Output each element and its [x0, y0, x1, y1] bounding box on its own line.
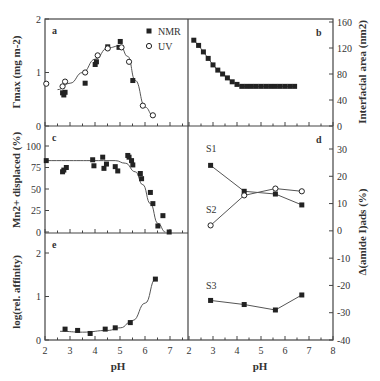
svg-text:2: 2	[36, 248, 41, 259]
series-label-s1: S1	[206, 143, 217, 154]
svg-text:-10: -10	[337, 253, 350, 264]
xlabel-left: pH	[111, 360, 126, 372]
svg-text:1: 1	[36, 67, 41, 78]
ylabel-d: Δ(amide I)ads (%)	[356, 188, 369, 275]
panel-label-a: a	[52, 25, 57, 36]
svg-text:0: 0	[337, 121, 342, 132]
figure: 2345672345678012025507510001204080120160…	[0, 0, 380, 381]
svg-text:2: 2	[187, 345, 192, 356]
svg-text:50: 50	[31, 184, 41, 195]
svg-text:7: 7	[307, 345, 312, 356]
svg-text:100: 100	[26, 141, 41, 152]
ylabel-a: Γmax (mg m-2)	[10, 35, 23, 108]
panel-label-e: e	[52, 239, 57, 250]
xlabel-right: pH	[253, 360, 268, 372]
svg-text:8: 8	[331, 345, 336, 356]
svg-text:120: 120	[337, 43, 352, 54]
ylabel-e: log(rel. affinity)	[10, 255, 23, 329]
legend-uv-marker	[146, 43, 151, 48]
svg-text:0: 0	[36, 335, 41, 346]
legend: NMR UV	[146, 26, 181, 52]
panel-label-c: c	[52, 132, 57, 143]
svg-text:1: 1	[36, 291, 41, 302]
panel-label-b: b	[316, 27, 322, 38]
svg-text:160: 160	[337, 17, 352, 28]
svg-text:-40: -40	[337, 335, 350, 346]
plot-data	[44, 38, 305, 336]
svg-text:25: 25	[31, 205, 41, 216]
svg-text:0: 0	[337, 225, 342, 236]
legend-uv-label: UV	[158, 41, 173, 52]
svg-text:5: 5	[118, 345, 123, 356]
svg-text:40: 40	[337, 95, 347, 106]
svg-text:7: 7	[168, 345, 173, 356]
svg-text:6: 6	[143, 345, 148, 356]
legend-nmr-marker	[147, 29, 152, 34]
ylabel-b: Interfacial area (nm2)	[356, 20, 369, 124]
svg-text:-20: -20	[337, 280, 350, 291]
legend-nmr-label: NMR	[158, 26, 181, 37]
svg-text:10: 10	[337, 198, 347, 209]
svg-text:2: 2	[43, 345, 48, 356]
svg-text:0: 0	[36, 121, 41, 132]
svg-text:6: 6	[283, 345, 288, 356]
svg-text:80: 80	[337, 69, 347, 80]
svg-text:4: 4	[93, 345, 98, 356]
svg-text:30: 30	[337, 144, 347, 155]
tick-labels: 2345672345678012025507510001204080120160…	[26, 14, 352, 357]
svg-text:5: 5	[259, 345, 264, 356]
svg-text:3: 3	[211, 345, 216, 356]
svg-text:20: 20	[337, 171, 347, 182]
svg-text:2: 2	[36, 14, 41, 25]
svg-text:4: 4	[235, 345, 240, 356]
series-label-s3: S3	[206, 280, 217, 291]
panel-label-d: d	[316, 134, 322, 145]
svg-text:-30: -30	[337, 307, 350, 318]
svg-text:3: 3	[68, 345, 73, 356]
series-label-s2: S2	[206, 204, 217, 215]
ylabel-c: Mn2+ displaced (%)	[10, 132, 23, 228]
svg-text:75: 75	[31, 162, 41, 173]
svg-text:0: 0	[36, 227, 41, 238]
